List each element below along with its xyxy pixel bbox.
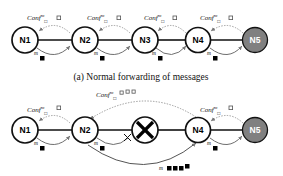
conf-label: Confm□ [200,105,220,116]
panel-a-caption: (a) Normal forwarding of messages [73,72,208,83]
blocked-transmission-slash [124,134,131,141]
conf-marker [57,106,61,110]
conf-arc-n5-n4 [211,25,243,33]
msg-arc-n4-n5 [210,46,242,55]
conf-marker [132,90,135,93]
queued-message-marker [179,166,184,171]
conf-marker [229,16,233,20]
queued-message-marker [185,164,190,169]
msg-arc-b-n1-n2 [37,136,70,145]
message-marker [40,56,45,61]
conf-arc-b-n2-n1 [39,115,70,123]
node-n2-label: N2 [80,35,91,45]
node-n5-label: N5 [250,35,261,45]
message-marker [100,146,105,151]
message-label: m [34,50,38,56]
message-label: m [34,140,38,146]
message-label: m [94,140,98,146]
message-marker [158,56,163,61]
message-label: m [94,50,98,56]
conf-arc-n4-n3 [158,25,186,33]
conf-label: Confm□ [27,105,47,116]
conf-label: Confm□ [87,13,107,24]
node-b-n2-label: N2 [80,125,91,135]
figure-network-message-forwarding: N1 N2 N3 N4 N5 [0,0,283,176]
panel-b-message-markers [40,146,218,171]
message-label: m [152,50,156,56]
node-n3-label: N3 [140,35,151,45]
queued-message-marker [167,166,172,171]
message-marker [40,146,45,151]
msg-arc-n3-n4 [156,46,186,55]
msg-arc-b-n4-n5 [210,136,242,145]
node-n4-label: N4 [193,35,204,45]
node-b-n5-label: N5 [250,125,261,135]
conf-label: Confm□ [200,13,220,24]
msg-arc-b-n2-n3-blocked [97,138,128,145]
conf-marker [117,16,121,20]
msg-arc-n2-n3 [97,46,130,55]
message-label-queue: m [159,165,163,171]
message-label: m [207,50,211,56]
conf-marker [57,16,61,20]
message-label: m [207,140,211,146]
node-b-n4-label: N4 [193,125,204,135]
conf-arc-b-n5-n4 [211,115,243,123]
conf-arc-n3-n2 [99,25,130,33]
conf-label: Confm□ [27,13,47,24]
queued-message-marker [173,166,178,171]
message-marker [213,146,218,151]
conf-marker [120,91,123,94]
conf-arc-n2-n1 [39,25,70,33]
conf-label: Confm□ [144,13,164,24]
conf-marker [173,16,177,20]
node-n1-label: N1 [20,35,31,45]
panel-a-message-markers [40,56,218,61]
conf-label-bypass: Confm□ [96,90,116,101]
message-marker [213,56,218,61]
node-b-n1-label: N1 [20,125,31,135]
conf-marker [126,90,129,93]
msg-arc-n1-n2 [37,46,70,55]
figure-canvas: N1 N2 N3 N4 N5 [0,0,283,176]
conf-marker [229,106,233,110]
message-marker [100,56,105,61]
